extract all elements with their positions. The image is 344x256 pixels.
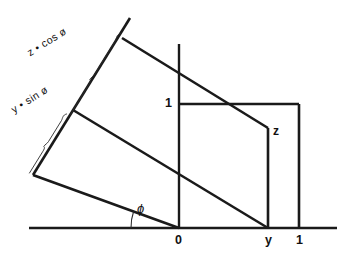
phi-angle-arc [131, 212, 134, 229]
label-x-axis-zero: 0 [175, 234, 182, 247]
projection-diagram-figure: z • cos ø y • sin ø 1 z ϕ 0 y 1 [0, 0, 344, 256]
projection-ray-top [122, 38, 268, 128]
label-x-axis-y: y [265, 234, 272, 247]
label-phi-angle: ϕ [137, 202, 144, 215]
projection-ray-bottom [33, 175, 179, 228]
brace-y-sin-phi [30, 114, 67, 173]
label-x-axis-one: 1 [296, 234, 303, 247]
label-z: z [273, 125, 279, 137]
label-y-axis-one: 1 [165, 97, 172, 110]
projection-ray-middle [73, 110, 268, 228]
